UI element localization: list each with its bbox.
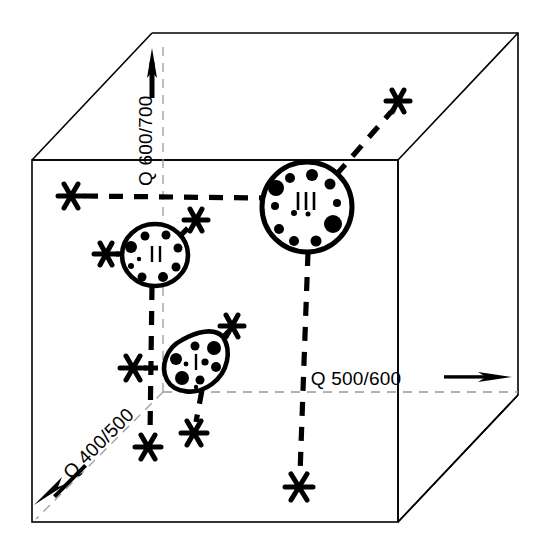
axis-label-q600-700: Q 600/700 [135,95,156,186]
leader-cell-i-vertical [196,390,202,422]
cell-ii[interactable]: II [122,224,188,300]
leader-cell-iii-vertical [300,252,308,474]
axis-q600-700-arrow [147,48,157,98]
leader-cell-iii-diagonal [336,112,391,175]
marker-7-asterisk [135,435,161,459]
cube-back-top-left-edge [32,33,152,160]
cube-back-face [152,33,518,522]
axis-label-q500-600: Q 500/600 [311,368,402,389]
marker-8-asterisk [181,421,207,445]
cell-ii-outline [122,224,188,286]
cube-edge-bottom-right [398,395,518,522]
leader-cell-ii-vertical [150,286,152,436]
marker-9-asterisk [285,474,313,500]
cell-iii[interactable]: III [262,162,352,266]
cube-diagram: Q 600/700 Q 500/600 Q 400/500 [0,0,548,545]
axis-q500-600-arrow [444,372,512,382]
cell-i[interactable]: I [164,331,228,404]
axis-label-q400-500: Q 400/500 [59,404,138,483]
marker-2-asterisk [94,243,118,265]
leader-cell-iii-horizontal [84,196,262,198]
marker-1-asterisk [58,184,84,208]
axis-labels: Q 600/700 Q 500/600 Q 400/500 [59,95,401,482]
marker-5-asterisk [386,90,410,112]
figure-container: Q 600/700 Q 500/600 Q 400/500 [0,0,548,545]
marker-6-asterisk [120,356,146,380]
cube-edge-top-right [398,33,518,160]
marker-3-asterisk [184,209,208,231]
